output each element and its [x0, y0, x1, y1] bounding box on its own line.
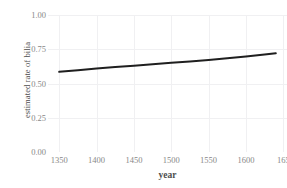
series-line [59, 53, 276, 72]
x-axis-tick-label: 1550 [200, 155, 217, 166]
y-axis-tick-label: 0.50 [26, 79, 46, 89]
y-axis-tick-label: 1.00 [26, 10, 46, 20]
x-axis-tick-label: 1400 [88, 155, 105, 166]
x-axis-tick-label: 1600 [237, 155, 254, 166]
plot-panel [48, 15, 287, 152]
y-axis-tick-label: 0.75 [26, 44, 46, 54]
x-axis-tick-labels: 135014001450150015501600165 [48, 155, 287, 167]
series-line-layer [48, 15, 287, 152]
x-axis-tick-label: 1450 [125, 155, 142, 166]
line-chart: estimated rate of bilia 0.000.250.500.75… [0, 0, 287, 188]
y-axis-tick-label: 0.25 [26, 113, 46, 123]
x-axis-title: year [48, 170, 287, 180]
x-axis-tick-label: 1500 [163, 155, 180, 166]
y-axis-tick-label: 0.00 [26, 147, 46, 157]
x-axis-tick-label: 1350 [51, 155, 68, 166]
y-axis-tick-labels: 0.000.250.500.751.00 [26, 0, 46, 188]
x-axis-tick-label: 165 [277, 155, 287, 166]
